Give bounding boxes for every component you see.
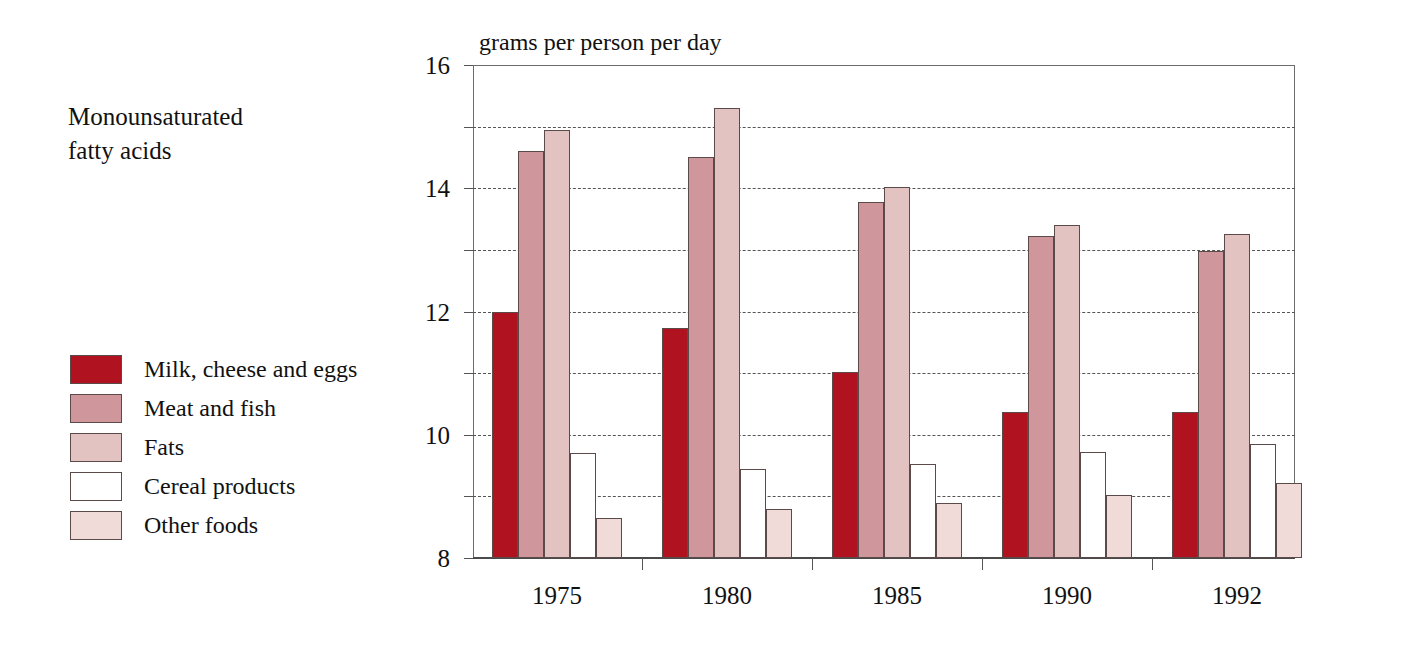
legend-swatch xyxy=(70,394,122,423)
bar xyxy=(1276,483,1302,558)
x-tick-label: 1975 xyxy=(532,582,582,610)
page-title: Monounsaturated fatty acids xyxy=(68,100,408,168)
x-tick-label: 1990 xyxy=(1042,582,1092,610)
bar xyxy=(1106,495,1132,558)
legend-swatch xyxy=(70,433,122,462)
y-tick-label: 10 xyxy=(425,422,450,450)
legend-item-label: Cereal products xyxy=(144,473,295,500)
y-tick-label: 12 xyxy=(425,299,450,327)
bar xyxy=(1198,251,1224,558)
chart-legend: Milk, cheese and eggsMeat and fishFatsCe… xyxy=(70,350,357,545)
bar xyxy=(858,202,884,558)
bar xyxy=(766,509,792,558)
legend-item: Meat and fish xyxy=(70,389,357,428)
bar xyxy=(570,453,596,558)
legend-item-label: Meat and fish xyxy=(144,395,276,422)
plot-area: grams per person per day 0246810121416 1… xyxy=(473,65,1295,558)
y-tick-mark: 4 xyxy=(464,435,473,436)
x-tick-label: 1980 xyxy=(702,582,752,610)
bar xyxy=(1054,225,1080,558)
y-tick-mark: 0 xyxy=(464,558,473,559)
y-tick-label: 14 xyxy=(425,175,450,203)
bar xyxy=(518,151,544,558)
y-tick-label: 16 xyxy=(425,52,450,80)
legend-item: Cereal products xyxy=(70,467,357,506)
y-tick-mark: 6 xyxy=(464,373,473,374)
y-tick-mark: 8 xyxy=(464,312,473,313)
bar xyxy=(1224,234,1250,558)
y-tick-mark: 10 xyxy=(464,250,473,251)
bar xyxy=(492,312,518,559)
x-tick-mark xyxy=(642,558,643,570)
bar xyxy=(714,108,740,558)
y-tick-mark: 2 xyxy=(464,496,473,497)
bar-group xyxy=(832,65,962,558)
bar xyxy=(1250,444,1276,558)
chart-page: Monounsaturated fatty acids Milk, cheese… xyxy=(0,0,1413,646)
bar xyxy=(1080,452,1106,558)
bar-group xyxy=(662,65,792,558)
legend-item-label: Milk, cheese and eggs xyxy=(144,356,357,383)
y-tick-label: 8 xyxy=(438,545,451,573)
bar xyxy=(910,464,936,558)
bar-group xyxy=(492,65,622,558)
x-tick-label: 1992 xyxy=(1212,582,1262,610)
bar-group xyxy=(1002,65,1132,558)
x-tick-mark xyxy=(812,558,813,570)
bar xyxy=(544,130,570,558)
x-tick-label: 1985 xyxy=(872,582,922,610)
legend-swatch xyxy=(70,511,122,540)
y-axis-label: grams per person per day xyxy=(479,29,722,56)
left-panel: Monounsaturated fatty acids Milk, cheese… xyxy=(0,0,430,646)
bar-group xyxy=(1172,65,1302,558)
legend-item-label: Other foods xyxy=(144,512,258,539)
bar xyxy=(596,518,622,558)
bar xyxy=(1002,412,1028,558)
bar xyxy=(662,328,688,558)
bar xyxy=(1172,412,1198,558)
bar xyxy=(832,372,858,558)
legend-item-label: Fats xyxy=(144,434,184,461)
bar xyxy=(1028,236,1054,558)
legend-item: Other foods xyxy=(70,506,357,545)
legend-swatch xyxy=(70,472,122,501)
legend-item: Fats xyxy=(70,428,357,467)
y-tick-mark: 12 xyxy=(464,188,473,189)
y-tick-mark: 14 xyxy=(464,127,473,128)
legend-item: Milk, cheese and eggs xyxy=(70,350,357,389)
bar xyxy=(688,157,714,558)
x-tick-mark xyxy=(1152,558,1153,570)
y-tick-mark: 16 xyxy=(464,65,473,66)
legend-swatch xyxy=(70,355,122,384)
bar xyxy=(884,187,910,558)
bar xyxy=(740,469,766,558)
bar xyxy=(936,503,962,558)
x-tick-mark xyxy=(982,558,983,570)
